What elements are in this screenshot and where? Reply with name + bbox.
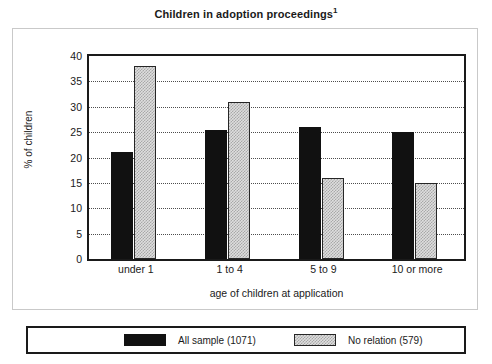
y-tick-label: 5 (76, 228, 82, 240)
legend-label-all-sample: All sample (1071) (178, 335, 256, 346)
chart-frame: % of children 0510152025303540 under 11 … (12, 28, 478, 310)
y-tick-label: 15 (70, 177, 82, 189)
bar-group (370, 56, 464, 259)
y-tick-label: 40 (70, 50, 82, 62)
bar[interactable] (228, 102, 250, 259)
y-tick-label: 10 (70, 202, 82, 214)
bar-group (183, 56, 277, 259)
legend-entry-no-relation: No relation (579) (294, 328, 422, 352)
bar-group (89, 56, 183, 259)
y-tick-label: 25 (70, 126, 82, 138)
bar-group (277, 56, 371, 259)
legend-swatch-no-relation (294, 334, 336, 346)
y-tick-label: 30 (70, 101, 82, 113)
y-tick-label: 35 (70, 75, 82, 87)
bar[interactable] (415, 183, 437, 259)
bar[interactable] (205, 130, 227, 259)
y-tick-label: 0 (76, 253, 82, 265)
plot-area: 0510152025303540 (87, 54, 466, 261)
bar[interactable] (299, 127, 321, 259)
x-tick-label: 1 to 4 (183, 263, 277, 275)
bar[interactable] (322, 178, 344, 259)
x-axis-title: age of children at application (89, 287, 464, 299)
chart-title-text: Children in adoption proceedings (154, 8, 333, 20)
bar[interactable] (392, 132, 414, 259)
y-tick-label: 20 (70, 152, 82, 164)
bar[interactable] (111, 152, 133, 259)
x-tick-label: under 1 (89, 263, 183, 275)
bars-layer (89, 56, 464, 259)
x-tick-label: 5 to 9 (277, 263, 371, 275)
chart-title: Children in adoption proceedings1 (0, 6, 492, 20)
y-axis-title: % of children (23, 80, 34, 200)
chart-legend: All sample (1071) No relation (579) (26, 326, 466, 354)
legend-label-no-relation: No relation (579) (348, 335, 422, 346)
legend-entry-all-sample: All sample (1071) (124, 328, 256, 352)
bar[interactable] (134, 66, 156, 259)
chart-title-footnote-marker: 1 (333, 6, 338, 15)
legend-swatch-all-sample (124, 334, 166, 346)
x-tick-label: 10 or more (370, 263, 464, 275)
x-tick-labels: under 11 to 45 to 910 or more (89, 263, 464, 275)
